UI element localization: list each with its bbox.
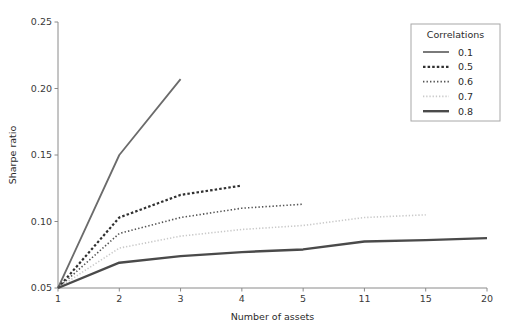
x-tick-label: 15: [420, 293, 432, 304]
x-axis-label: Number of assets: [231, 311, 315, 322]
x-tick-label: 20: [481, 293, 493, 304]
x-tick-label: 3: [178, 293, 184, 304]
x-tick-label: 5: [300, 293, 306, 304]
legend-label-0.6: 0.6: [458, 76, 473, 87]
chart-figure: 0.050.100.150.200.25 12345111520 Sharpe …: [0, 0, 512, 324]
y-tick-label: 0.15: [31, 149, 52, 160]
legend-label-0.5: 0.5: [458, 61, 473, 72]
y-tick-label: 0.20: [31, 83, 52, 94]
legend-label-0.1: 0.1: [458, 47, 473, 58]
y-tick-label: 0.05: [31, 282, 52, 293]
x-tick-label: 2: [116, 293, 122, 304]
chart-legend: Correlations0.10.50.60.70.8: [411, 24, 500, 121]
sharpe-ratio-line-chart: 0.050.100.150.200.25 12345111520 Sharpe …: [0, 0, 512, 324]
x-tick-label: 11: [358, 293, 370, 304]
y-axis-label: Sharpe ratio: [7, 126, 18, 185]
y-tick-label: 0.25: [31, 16, 52, 27]
legend-label-0.8: 0.8: [458, 106, 473, 117]
legend-label-0.7: 0.7: [458, 91, 473, 102]
x-tick-label: 4: [239, 293, 245, 304]
legend-title: Correlations: [427, 29, 484, 40]
y-tick-label: 0.10: [31, 216, 52, 227]
x-tick-label: 1: [55, 293, 61, 304]
